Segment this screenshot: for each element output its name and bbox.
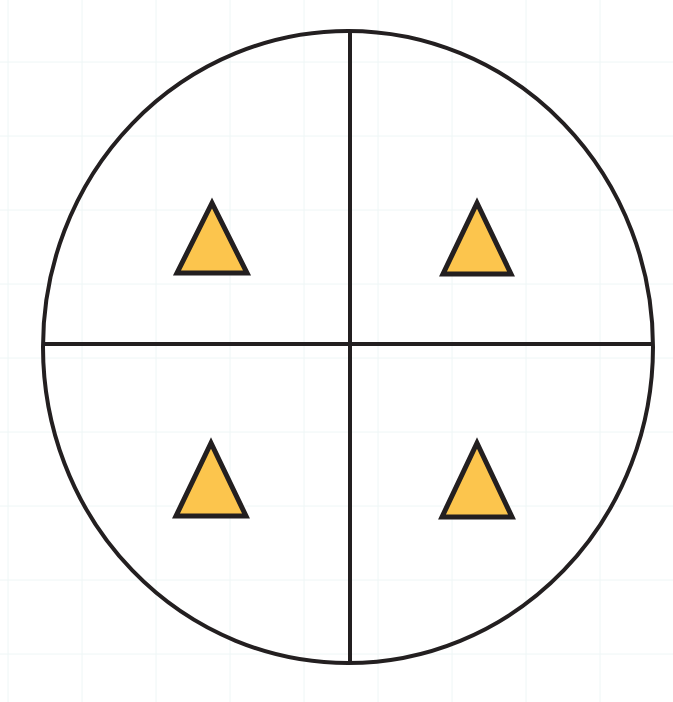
triangle-top-right	[443, 203, 511, 274]
triangle-bottom-left	[176, 443, 246, 516]
diagram-canvas	[0, 0, 673, 702]
triangles-group	[176, 203, 512, 517]
quartered-circle-diagram	[0, 0, 673, 702]
triangle-top-left	[177, 203, 247, 273]
background-grid	[0, 0, 673, 702]
